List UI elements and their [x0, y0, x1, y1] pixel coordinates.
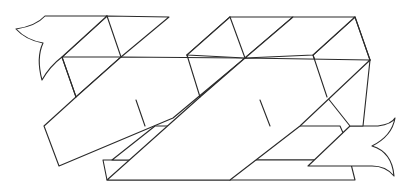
ribbon-diagram	[0, 0, 407, 194]
